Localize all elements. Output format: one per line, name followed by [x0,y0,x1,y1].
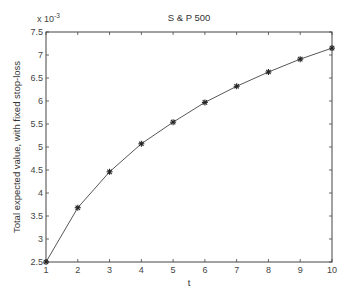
x-axis-label: t [188,277,191,288]
x-tick-label: 9 [298,265,303,275]
y-tick-label: 7 [38,50,43,60]
x-tick-label: 3 [107,265,112,275]
y-tick-label: 6 [38,96,43,106]
asterisk-marker-icon [329,45,335,51]
y-tick-label: 3.5 [30,211,43,221]
x-tick-label: 1 [43,265,48,275]
asterisk-marker-icon [138,141,144,147]
y-axis-label: Total expected value, with fixed stop-lo… [11,61,22,233]
asterisk-marker-icon [202,99,208,105]
y-tick-label: 7.5 [30,27,43,37]
asterisk-marker-icon [107,169,113,175]
chart-title: S & P 500 [168,12,211,23]
asterisk-marker-icon [43,259,49,265]
x-tick-label: 2 [75,265,80,275]
asterisk-marker-icon [75,205,81,211]
asterisk-marker-icon [170,119,176,125]
y-tick-label: 2.5 [30,257,43,267]
y-tick-label: 4.5 [30,165,43,175]
x-tick-label: 6 [202,265,207,275]
asterisk-marker-icon [234,83,240,89]
x-tick-label: 4 [139,265,144,275]
x-tick-label: 8 [266,265,271,275]
y-axis-multiplier: x 10-3 [37,12,60,24]
plot-area [46,32,332,262]
y-tick-label: 6.5 [30,73,43,83]
line-chart: S & P 500 x 10-3 12345678910 2.533.544.5… [0,0,351,297]
asterisk-marker-icon [297,56,303,62]
asterisk-marker-icon [265,69,271,75]
svg-text:x 10-3: x 10-3 [37,12,60,24]
y-tick-label: 4 [38,188,43,198]
x-tick-label: 10 [327,265,337,275]
y-tick-label: 5.5 [30,119,43,129]
y-tick-label: 5 [38,142,43,152]
x-tick-label: 5 [171,265,176,275]
y-tick-label: 3 [38,234,43,244]
x-tick-label: 7 [234,265,239,275]
